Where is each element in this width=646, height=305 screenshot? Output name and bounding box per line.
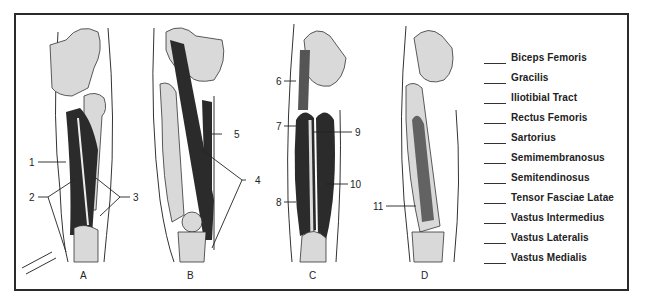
term-row-rectus-femoris: Rectus Femoris	[484, 104, 614, 124]
term-row-iliotibial-tract: Iliotibial Tract	[484, 84, 614, 104]
term-row-vastus-lateralis: Vastus Lateralis	[484, 224, 614, 244]
callout-7: 7	[276, 121, 282, 132]
panel-label-a: A	[80, 270, 87, 281]
muscle-term-list: Biceps Femoris Gracilis Iliotibial Tract…	[484, 44, 614, 264]
term-label: Rectus Femoris	[511, 112, 587, 124]
panel-b-illustration	[153, 28, 224, 262]
callout-8: 8	[276, 197, 282, 208]
callout-3: 3	[133, 192, 139, 203]
answer-blank[interactable]	[484, 171, 506, 184]
term-label: Gracilis	[511, 72, 549, 84]
term-label: Vastus Intermedius	[511, 212, 605, 224]
term-row-semitendinosus: Semitendinosus	[484, 164, 614, 184]
panel-a-illustration	[22, 28, 113, 274]
panel-c-illustration	[288, 24, 346, 262]
callout-5: 5	[234, 129, 240, 140]
answer-blank[interactable]	[484, 211, 506, 224]
answer-blank[interactable]	[484, 71, 506, 84]
panel-label-b: B	[187, 270, 194, 281]
term-label: Biceps Femoris	[511, 52, 587, 64]
panel-label-d: D	[421, 270, 428, 281]
term-label: Tensor Fasciae Latae	[511, 192, 614, 204]
answer-blank[interactable]	[484, 131, 506, 144]
answer-blank[interactable]	[484, 151, 506, 164]
panel-d-illustration	[401, 26, 458, 262]
term-label: Vastus Medialis	[511, 252, 587, 264]
answer-blank[interactable]	[484, 231, 506, 244]
term-label: Iliotibial Tract	[511, 92, 577, 104]
callout-1: 1	[29, 157, 35, 168]
callout-10: 10	[350, 179, 362, 190]
term-row-gracilis: Gracilis	[484, 64, 614, 84]
panel-label-c: C	[309, 270, 316, 281]
callout-6: 6	[276, 76, 282, 87]
answer-blank[interactable]	[484, 51, 506, 64]
term-label: Semitendinosus	[511, 172, 590, 184]
answer-blank[interactable]	[484, 111, 506, 124]
callout-11: 11	[373, 201, 384, 212]
term-row-vastus-intermedius: Vastus Intermedius	[484, 204, 614, 224]
term-row-tensor-fasciae-latae: Tensor Fasciae Latae	[484, 184, 614, 204]
term-label: Sartorius	[511, 132, 556, 144]
term-row-biceps-femoris: Biceps Femoris	[484, 44, 614, 64]
callout-9: 9	[355, 127, 361, 138]
term-label: Semimembranosus	[511, 152, 605, 164]
term-label: Vastus Lateralis	[511, 232, 589, 244]
term-row-vastus-medialis: Vastus Medialis	[484, 244, 614, 264]
callout-2: 2	[29, 192, 35, 203]
term-row-sartorius: Sartorius	[484, 124, 614, 144]
callout-4: 4	[255, 175, 261, 186]
term-row-semimembranosus: Semimembranosus	[484, 144, 614, 164]
answer-blank[interactable]	[484, 191, 506, 204]
answer-blank[interactable]	[484, 251, 506, 264]
answer-blank[interactable]	[484, 91, 506, 104]
